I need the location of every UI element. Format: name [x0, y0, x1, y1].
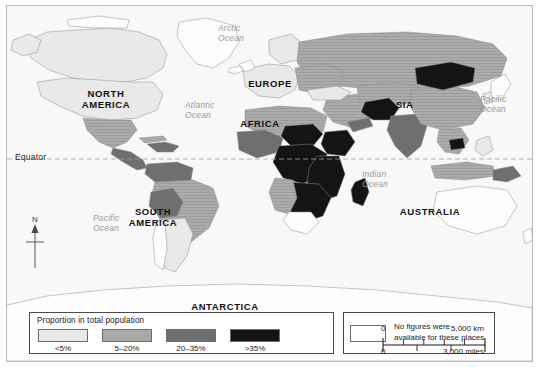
legend-swatch-2 — [166, 329, 216, 342]
north-arrow: N — [25, 216, 51, 272]
legend-label-3: >35% — [230, 344, 280, 353]
region-cambodia — [449, 138, 465, 150]
legend-swatch-1 — [102, 329, 152, 342]
legend-label-2: 20–35% — [166, 344, 216, 353]
region-indonesia — [431, 162, 495, 180]
scale-bar-graphic — [381, 334, 506, 356]
legend-label-0: <5% — [38, 344, 88, 353]
legend-swatch-3 — [230, 329, 280, 342]
north-arrow-label: N — [32, 215, 38, 224]
legend-swatch-0 — [38, 329, 88, 342]
world-map-figure: Arctic Ocean Atlantic Ocean Pacific Ocea… — [6, 5, 533, 362]
legend-label-1: 5–20% — [102, 344, 152, 353]
legend: Proportion in total population <5% 5–20%… — [29, 312, 334, 354]
legend-title: Proportion in total population — [37, 316, 144, 325]
scale-km-max: 5,000 km — [451, 324, 484, 333]
scale-km-zero: 0 — [381, 324, 385, 333]
equator-label: Equator — [15, 152, 46, 162]
region-korea — [483, 92, 493, 104]
map-canvas — [7, 6, 532, 361]
scale-bar: 0 5,000 km 0 3,000 miles — [381, 324, 506, 358]
